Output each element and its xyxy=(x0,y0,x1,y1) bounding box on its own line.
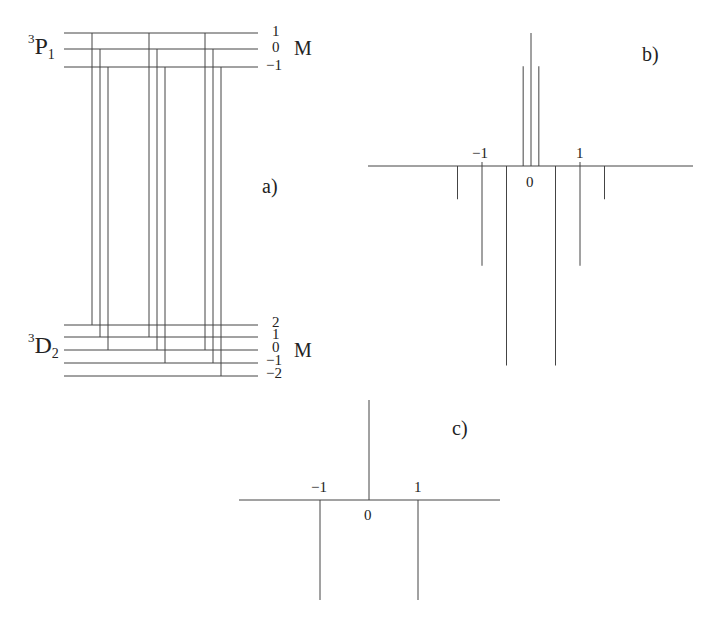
upper-m-0: 0 xyxy=(272,40,280,55)
upper-m-axis-label: M xyxy=(294,38,312,58)
lower-m-neg2: −2 xyxy=(266,366,282,381)
panel-c-tick-0: 0 xyxy=(364,508,372,523)
term-letter: D xyxy=(35,332,52,358)
upper-term-label: 3P1 xyxy=(28,34,55,58)
term-j: 2 xyxy=(52,346,59,361)
lower-term-label: 3D2 xyxy=(28,333,59,357)
panel-c-label: c) xyxy=(452,418,468,438)
term-j: 1 xyxy=(48,47,55,62)
panel-c-tick-minus1: −1 xyxy=(311,480,327,495)
panel-b-tick-minus1: −1 xyxy=(472,146,488,161)
panel-b-tick-1: 1 xyxy=(576,146,584,161)
panel-b-label: b) xyxy=(642,44,659,64)
panel-b-tick-0: 0 xyxy=(526,175,534,190)
term-letter: P xyxy=(35,33,48,59)
upper-m-neg1: −1 xyxy=(266,58,282,73)
panel-c-tick-1: 1 xyxy=(414,480,422,495)
panel-a-label: a) xyxy=(262,176,278,196)
zeeman-diagram: 3P1 3D2 1 0 −1 M 2 1 0 −1 −2 M a) b) −1 … xyxy=(0,0,714,627)
term-multiplicity: 3 xyxy=(28,31,35,46)
term-multiplicity: 3 xyxy=(28,330,35,345)
lower-m-axis-label: M xyxy=(294,340,312,360)
diagram-lines xyxy=(0,0,714,627)
upper-m-1: 1 xyxy=(272,24,280,39)
